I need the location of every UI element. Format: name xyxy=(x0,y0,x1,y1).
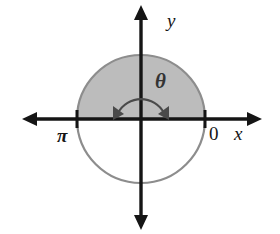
x-axis-label: x xyxy=(233,123,243,144)
pi-label: π xyxy=(57,125,68,146)
origin-label: 0 xyxy=(209,123,219,144)
y-axis-top-arrowhead xyxy=(134,5,148,20)
figure-canvas: y x 0 π θ xyxy=(0,0,280,234)
unit-circle-figure: y x 0 π θ xyxy=(0,0,280,234)
y-axis-bottom-arrowhead xyxy=(134,215,148,230)
x-axis-left-arrowhead xyxy=(22,112,37,126)
y-axis-label: y xyxy=(165,10,176,31)
theta-label: θ xyxy=(155,69,166,93)
x-axis-right-arrowhead xyxy=(247,112,262,126)
